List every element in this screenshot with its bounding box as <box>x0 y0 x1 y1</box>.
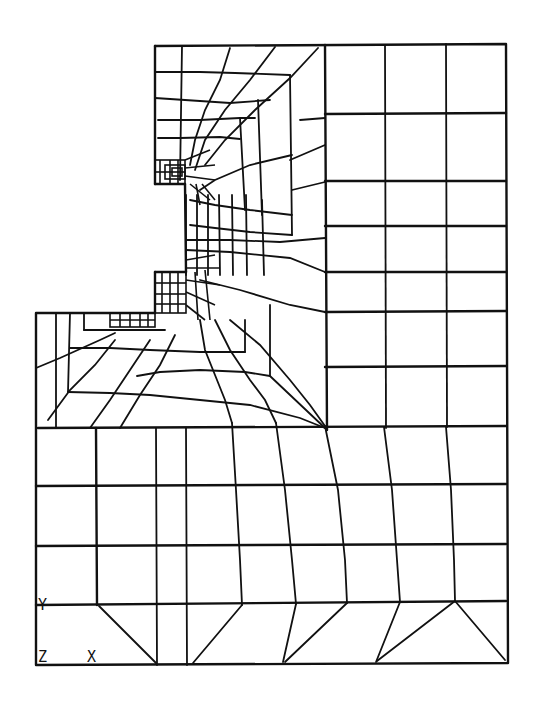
fe-mesh-diagram: Y Z X <box>0 0 544 713</box>
axis-triad: Y Z X <box>38 596 96 666</box>
right-regular-grid <box>325 44 506 430</box>
lower-notch-region <box>36 272 325 428</box>
bottom-grid <box>36 423 506 665</box>
upper-fan-region <box>155 46 325 272</box>
axis-z-label: Z <box>38 648 47 666</box>
outer-boundary <box>36 44 508 665</box>
refined-mesh-lower-corner <box>110 255 220 327</box>
axis-y-label: Y <box>38 596 47 614</box>
axis-x-label: X <box>87 648 96 666</box>
